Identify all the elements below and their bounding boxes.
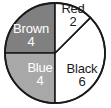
spinner-circle-graph: Brown 4 Red 2 Blue 4 Black 6 bbox=[0, 0, 111, 108]
pie-chart-svg bbox=[0, 0, 111, 108]
